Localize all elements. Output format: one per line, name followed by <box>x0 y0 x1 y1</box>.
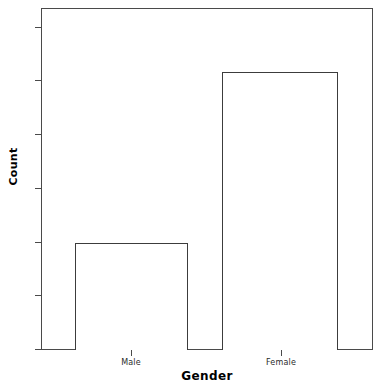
y-tick-mark-20 <box>35 134 41 135</box>
y-tick-mark-0 <box>35 349 41 350</box>
bar-chart-figure: 0 5 10 15 20 25 30 Male Female Count Gen… <box>0 0 385 391</box>
bar-female <box>222 72 338 350</box>
x-tick-mark-female <box>281 350 282 356</box>
y-tick-mark-30 <box>35 27 41 28</box>
y-tick-mark-25 <box>35 80 41 81</box>
x-tick-label-female: Female <box>241 358 321 367</box>
x-tick-label-male: Male <box>91 358 171 367</box>
y-tick-mark-5 <box>35 295 41 296</box>
y-tick-mark-10 <box>35 242 41 243</box>
x-axis-title: Gender <box>41 369 373 383</box>
y-tick-mark-15 <box>35 188 41 189</box>
y-axis-title: Count <box>7 137 20 197</box>
bar-male <box>75 243 188 350</box>
x-tick-mark-male <box>131 350 132 356</box>
